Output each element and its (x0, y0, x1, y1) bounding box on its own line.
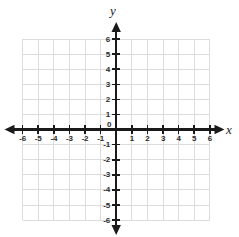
y-tick-label-4: 4 (94, 65, 110, 74)
x-tick-label-neg3: -3 (61, 134, 77, 143)
y-tick-label-neg4: -4 (92, 185, 110, 194)
x-tick-label-2: 2 (139, 134, 155, 143)
x-tick-label-1: 1 (124, 134, 140, 143)
y-axis-label: y (110, 3, 116, 19)
x-axis-label: x (226, 122, 232, 138)
y-tick-label-neg3: -3 (92, 170, 110, 179)
x-tick-label-3: 3 (155, 134, 171, 143)
x-tick-label-5: 5 (186, 134, 202, 143)
x-tick-label-4: 4 (171, 134, 187, 143)
y-axis-top-arrow (112, 22, 121, 32)
y-tick-label-neg1: -1 (92, 140, 110, 149)
x-tick-label-neg4: -4 (46, 134, 62, 143)
x-axis-left-arrow (5, 125, 15, 134)
y-tick-label-6: 6 (94, 35, 110, 44)
x-tick-label-neg5: -5 (30, 134, 46, 143)
x-tick-label-neg2: -2 (77, 134, 93, 143)
grid-and-axes (0, 0, 239, 237)
coordinate-plane: -6 -5 -4 -3 -2 -1 1 2 3 4 5 6 6 5 4 3 2 … (0, 0, 239, 237)
y-tick-label-neg6: -6 (92, 216, 110, 225)
y-tick-label-2: 2 (94, 95, 110, 104)
origin-label: 0 (107, 120, 111, 129)
x-tick-label-6: 6 (202, 134, 218, 143)
y-tick-label-1: 1 (94, 110, 110, 119)
y-tick-label-neg2: -2 (92, 155, 110, 164)
x-axis-right-arrow (215, 125, 225, 134)
y-tick-label-neg5: -5 (92, 201, 110, 210)
x-tick-label-neg6: -6 (15, 134, 31, 143)
y-tick-label-3: 3 (94, 80, 110, 89)
y-tick-label-5: 5 (94, 50, 110, 59)
y-axis-bottom-arrow (112, 225, 121, 235)
